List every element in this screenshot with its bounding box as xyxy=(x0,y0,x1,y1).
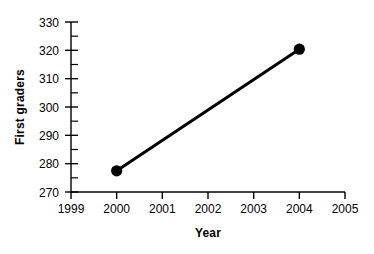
y-tick-label: 290 xyxy=(39,129,59,143)
y-axis-title: First graders xyxy=(13,69,27,145)
x-axis-title: Year xyxy=(195,226,221,240)
line-chart: 330 320 310 300 290 280 270 1999 2000 20… xyxy=(0,0,374,254)
x-tick-label: 2000 xyxy=(103,202,130,216)
x-tick-label: 2001 xyxy=(149,202,176,216)
x-tick-label: 2002 xyxy=(195,202,222,216)
chart-canvas: 330 320 310 300 290 280 270 1999 2000 20… xyxy=(0,0,374,254)
y-tick-label: 270 xyxy=(39,186,59,200)
y-tick-label: 310 xyxy=(39,72,59,86)
y-tick-label: 320 xyxy=(39,44,59,58)
data-point-2004 xyxy=(294,44,305,55)
y-tick-label: 300 xyxy=(39,101,59,115)
x-tick-label: 2005 xyxy=(332,202,359,216)
x-tick-label: 2003 xyxy=(240,202,267,216)
chart-background xyxy=(0,0,374,254)
x-tick-label: 1999 xyxy=(58,202,85,216)
x-tick-label: 2004 xyxy=(286,202,313,216)
y-tick-label: 280 xyxy=(39,157,59,171)
y-tick-label: 330 xyxy=(39,16,59,30)
data-point-2000 xyxy=(111,165,122,176)
